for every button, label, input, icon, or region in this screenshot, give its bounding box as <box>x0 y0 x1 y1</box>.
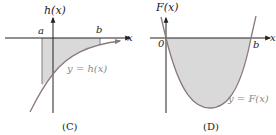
tick-a: a <box>38 25 44 36</box>
curve-label-f: y = F(x) <box>227 93 269 104</box>
y-axis-label-c: h(x) <box>44 4 66 17</box>
caption-c: (C) <box>62 121 78 132</box>
curve-label-h: y = h(x) <box>66 63 107 74</box>
tick-zero: 0 <box>158 38 165 49</box>
x-axis-label-d: x <box>270 32 276 43</box>
tick-b-c: b <box>96 24 102 35</box>
panel-d: F(x) x 0 b y = F(x) (D) <box>150 1 276 132</box>
panel-c: h(x) x a b y = h(x) (C) <box>5 4 133 132</box>
caption-d: (D) <box>203 121 219 132</box>
x-axis-label-c: x <box>127 32 133 43</box>
diagram-canvas: h(x) x a b y = h(x) (C) F(x) x 0 b y = F… <box>0 0 276 135</box>
y-axis-label-d: F(x) <box>155 1 178 14</box>
tick-b-d: b <box>253 39 259 50</box>
shaded-area-c <box>42 38 100 86</box>
